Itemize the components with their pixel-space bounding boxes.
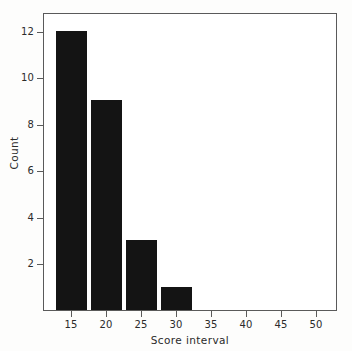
- y-tick-label: 10: [10, 73, 34, 83]
- x-tick-label: 25: [128, 320, 154, 330]
- x-tick-mark: [141, 311, 142, 317]
- y-tick-mark: [37, 264, 43, 265]
- x-tick-mark: [176, 311, 177, 317]
- y-axis-label: Count: [8, 123, 20, 183]
- x-tick-label: 35: [198, 320, 224, 330]
- histogram-bar: [56, 31, 87, 310]
- x-tick-mark: [316, 311, 317, 317]
- x-tick-label: 20: [93, 320, 119, 330]
- y-tick-mark: [37, 125, 43, 126]
- x-tick-mark: [71, 311, 72, 317]
- histogram-figure: 24681012 1520253035404550 Score interval…: [0, 0, 352, 351]
- y-tick-mark: [37, 78, 43, 79]
- x-tick-label: 15: [58, 320, 84, 330]
- histogram-bar: [91, 100, 122, 310]
- x-tick-label: 30: [163, 320, 189, 330]
- x-axis-label: Score interval: [43, 334, 337, 346]
- y-tick-label: 4: [10, 213, 34, 223]
- x-tick-label: 40: [233, 320, 259, 330]
- x-tick-mark: [281, 311, 282, 317]
- y-tick-mark: [37, 32, 43, 33]
- histogram-bar: [161, 287, 192, 310]
- y-tick-mark: [37, 218, 43, 219]
- plot-area: [43, 13, 337, 311]
- x-tick-mark: [211, 311, 212, 317]
- x-tick-label: 50: [303, 320, 329, 330]
- y-tick-label: 12: [10, 27, 34, 37]
- x-tick-label: 45: [268, 320, 294, 330]
- y-tick-mark: [37, 171, 43, 172]
- x-tick-mark: [246, 311, 247, 317]
- x-tick-mark: [106, 311, 107, 317]
- y-tick-label: 2: [10, 259, 34, 269]
- histogram-bar: [126, 240, 157, 310]
